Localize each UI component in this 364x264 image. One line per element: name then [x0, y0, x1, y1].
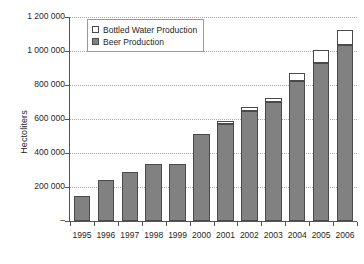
bar-segment-beer	[98, 180, 115, 221]
y-tick-mark	[65, 51, 69, 52]
x-tick-mark	[142, 222, 143, 226]
x-tick-label: 2005	[309, 230, 333, 240]
x-tick-label: 2003	[261, 230, 285, 240]
bar-segment-beer	[217, 124, 234, 221]
y-tick-label: 600 000	[34, 114, 65, 123]
legend-label-bottled-water: Bottled Water Production	[103, 25, 197, 35]
y-tick-mark	[65, 187, 69, 188]
x-tick-mark	[333, 222, 334, 226]
x-tick-label: 1997	[118, 230, 142, 240]
bar-segment-beer	[337, 45, 354, 221]
bar-segment-bottled-water	[265, 98, 282, 102]
x-tick-label: 1999	[166, 230, 190, 240]
y-tick-mark	[65, 119, 69, 120]
y-tick-label: 800 000	[34, 80, 65, 89]
bar-chart: Hectoliters –200 000400 000600 000800 00…	[0, 0, 364, 264]
y-tick-mark	[65, 221, 69, 222]
legend-item-bottled-water: Bottled Water Production	[92, 24, 197, 35]
x-tick-mark	[190, 222, 191, 226]
x-tick-mark	[94, 222, 95, 226]
bar-group	[217, 121, 234, 221]
x-tick-mark	[70, 222, 71, 226]
x-tick-mark	[166, 222, 167, 226]
legend-item-beer: Beer Production	[92, 36, 197, 47]
bar-segment-beer	[145, 164, 162, 221]
y-tick-label: 1 200 000	[27, 12, 65, 21]
x-tick-label: 2004	[285, 230, 309, 240]
bar-group	[122, 172, 139, 221]
x-tick-mark	[285, 222, 286, 226]
x-tick-mark	[214, 222, 215, 226]
bar-segment-bottled-water	[313, 50, 330, 64]
x-tick-mark	[357, 222, 358, 226]
bar-segment-beer	[193, 134, 210, 221]
bar-segment-bottled-water	[337, 30, 354, 45]
x-tick-mark	[118, 222, 119, 226]
legend-swatch-bottled-water-icon	[92, 26, 99, 33]
chart-legend: Bottled Water Production Beer Production	[87, 19, 204, 52]
x-tick-mark	[237, 222, 238, 226]
x-tick-label: 2006	[333, 230, 357, 240]
bar-group	[98, 180, 115, 221]
x-tick-mark	[261, 222, 262, 226]
legend-label-beer: Beer Production	[103, 37, 164, 47]
legend-swatch-beer-icon	[92, 38, 99, 45]
y-tick-label: 400 000	[34, 148, 65, 157]
bar-segment-bottled-water	[289, 73, 306, 81]
bar-group	[74, 196, 91, 222]
y-tick-mark	[65, 153, 69, 154]
y-tick-label: 200 000	[34, 182, 65, 191]
bar-group	[241, 107, 258, 221]
bar-group	[169, 164, 186, 221]
bar-group	[337, 30, 354, 221]
bar-segment-beer	[313, 63, 330, 221]
y-tick-label: 1 000 000	[27, 46, 65, 55]
x-tick-label: 1995	[70, 230, 94, 240]
bar-segment-beer	[241, 111, 258, 222]
x-tick-label: 1998	[142, 230, 166, 240]
bar-segment-beer	[122, 172, 139, 221]
bar-group	[193, 134, 210, 221]
bar-segment-bottled-water	[241, 107, 258, 110]
y-axis-tick-labels: –200 000400 000600 000800 0001 000 0001 …	[14, 0, 65, 264]
x-tick-label: 2002	[237, 230, 261, 240]
bar-group	[289, 73, 306, 221]
bar-group	[313, 50, 330, 221]
bar-segment-beer	[265, 102, 282, 221]
bar-group	[265, 98, 282, 221]
x-tick-label: 1996	[94, 230, 118, 240]
bar-segment-bottled-water	[217, 121, 234, 124]
x-tick-label: 2001	[214, 230, 238, 240]
x-tick-mark	[309, 222, 310, 226]
y-tick-mark	[65, 85, 69, 86]
bar-segment-beer	[74, 196, 91, 222]
bar-segment-beer	[289, 81, 306, 221]
bar-group	[145, 164, 162, 221]
y-tick-mark	[65, 17, 69, 18]
bar-segment-beer	[169, 164, 186, 221]
x-tick-label: 2000	[190, 230, 214, 240]
